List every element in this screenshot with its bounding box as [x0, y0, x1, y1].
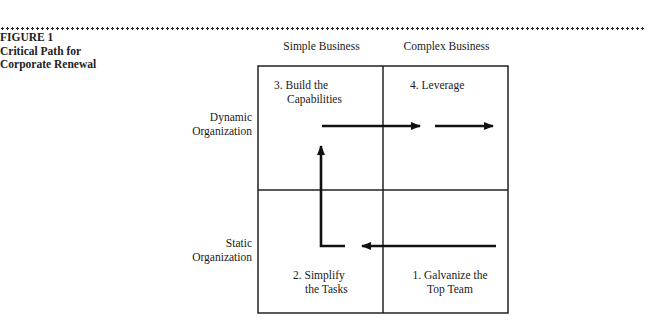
cell-leverage: 4. Leverage — [410, 78, 464, 92]
cell-galvanize-top-team: 1. Galvanize the Top Team — [403, 268, 497, 296]
cell-text: 3. Build the — [274, 78, 342, 92]
cell-simplify-tasks: 2. Simplify the Tasks — [293, 268, 348, 296]
arrow-simplify-to-build — [321, 146, 345, 246]
critical-path-arrows — [321, 126, 496, 246]
cell-text: Capabilities — [274, 92, 342, 106]
cell-text: Top Team — [403, 282, 497, 296]
cell-text: 1. Galvanize the — [403, 268, 497, 282]
cell-text: 2. Simplify — [293, 268, 348, 282]
cell-text: 4. Leverage — [410, 78, 464, 92]
cell-build-capabilities: 3. Build the Capabilities — [274, 78, 342, 106]
cell-text: the Tasks — [293, 282, 348, 296]
